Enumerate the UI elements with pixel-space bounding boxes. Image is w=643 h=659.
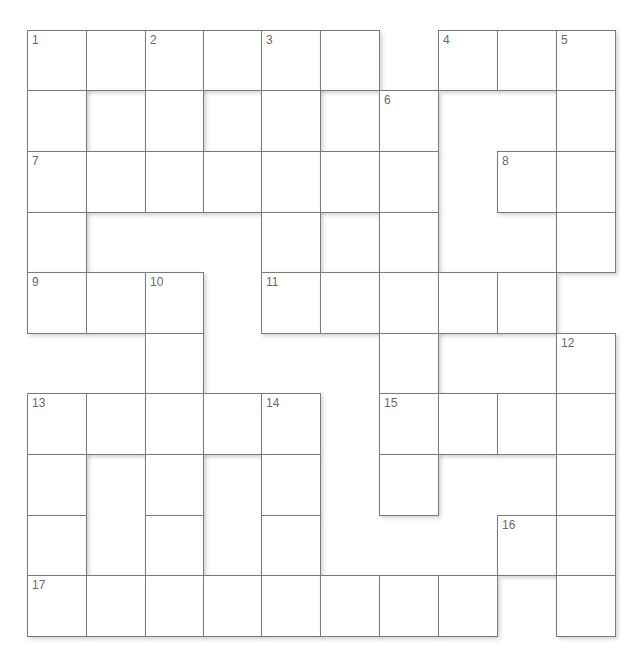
clue-number: 12 <box>561 337 574 349</box>
crossword-cell[interactable] <box>497 393 557 455</box>
crossword-cell[interactable] <box>261 212 321 273</box>
crossword-cell[interactable] <box>145 515 204 576</box>
crossword-cell[interactable] <box>261 454 321 516</box>
crossword-cell[interactable] <box>320 575 380 637</box>
crossword-cell[interactable] <box>438 272 498 334</box>
crossword-cell[interactable] <box>27 212 87 273</box>
crossword-cell[interactable]: 11 <box>261 272 321 334</box>
crossword-cell[interactable] <box>203 30 262 91</box>
crossword-cell[interactable]: 12 <box>556 333 616 394</box>
crossword-cell[interactable] <box>145 151 204 213</box>
crossword-cell[interactable] <box>556 90 616 152</box>
crossword-cell[interactable]: 2 <box>145 30 204 91</box>
crossword-cell[interactable] <box>497 30 557 91</box>
crossword-cell[interactable]: 1 <box>27 30 87 91</box>
crossword-cell[interactable] <box>145 454 204 516</box>
crossword-cell[interactable]: 6 <box>379 90 439 152</box>
crossword-cell[interactable] <box>320 30 380 91</box>
crossword-cell[interactable] <box>203 575 262 637</box>
crossword-cell[interactable] <box>86 393 146 455</box>
crossword-cell[interactable] <box>27 515 87 576</box>
crossword-cell[interactable] <box>27 90 87 152</box>
crossword-cell[interactable] <box>438 575 498 637</box>
clue-number: 9 <box>32 276 39 288</box>
crossword-cell[interactable] <box>261 515 321 576</box>
clue-number: 16 <box>502 519 515 531</box>
crossword-cell[interactable] <box>556 151 616 213</box>
crossword-cell[interactable] <box>203 393 262 455</box>
crossword-cell[interactable]: 4 <box>438 30 498 91</box>
clue-number: 1 <box>32 34 39 46</box>
crossword-cell[interactable] <box>556 575 616 637</box>
crossword-cell[interactable] <box>27 454 87 516</box>
crossword-cell[interactable]: 16 <box>497 515 557 576</box>
crossword-cell[interactable] <box>556 515 616 576</box>
crossword-cell[interactable]: 15 <box>379 393 439 455</box>
clue-number: 2 <box>150 34 157 46</box>
crossword-cell[interactable] <box>145 333 204 394</box>
crossword-cell[interactable] <box>379 151 439 213</box>
crossword-cell[interactable] <box>438 393 498 455</box>
clue-number: 5 <box>561 34 568 46</box>
crossword-cell[interactable] <box>379 212 439 273</box>
crossword-cell[interactable]: 17 <box>27 575 87 637</box>
clue-number: 14 <box>266 397 279 409</box>
crossword-cell[interactable] <box>556 212 616 273</box>
crossword-cell[interactable] <box>379 575 439 637</box>
crossword-cell[interactable]: 8 <box>497 151 557 213</box>
clue-number: 13 <box>32 397 45 409</box>
clue-number: 6 <box>384 94 391 106</box>
clue-number: 10 <box>150 276 163 288</box>
crossword-cell[interactable] <box>261 90 321 152</box>
crossword-grid: 1234567891011121314151617 <box>0 0 643 659</box>
crossword-cell[interactable] <box>320 151 380 213</box>
crossword-cell[interactable]: 3 <box>261 30 321 91</box>
clue-number: 7 <box>32 155 39 167</box>
crossword-cell[interactable] <box>556 454 616 516</box>
crossword-cell[interactable]: 14 <box>261 393 321 455</box>
crossword-cell[interactable]: 5 <box>556 30 616 91</box>
clue-number: 11 <box>266 276 278 288</box>
crossword-cell[interactable]: 9 <box>27 272 87 334</box>
crossword-cell[interactable]: 7 <box>27 151 87 213</box>
crossword-cell[interactable] <box>86 575 146 637</box>
crossword-cell[interactable] <box>261 151 321 213</box>
crossword-cell[interactable] <box>379 272 439 334</box>
crossword-cell[interactable] <box>86 272 146 334</box>
crossword-cell[interactable] <box>261 575 321 637</box>
crossword-cell[interactable] <box>556 393 616 455</box>
clue-number: 4 <box>443 34 450 46</box>
crossword-cell[interactable] <box>145 393 204 455</box>
crossword-cell[interactable] <box>497 272 557 334</box>
crossword-cell[interactable] <box>320 272 380 334</box>
crossword-cell[interactable] <box>86 30 146 91</box>
crossword-cell[interactable] <box>379 454 439 516</box>
clue-number: 3 <box>266 34 273 46</box>
clue-number: 8 <box>502 155 509 167</box>
crossword-cell[interactable] <box>145 575 204 637</box>
clue-number: 17 <box>32 579 45 591</box>
crossword-cell[interactable] <box>86 151 146 213</box>
clue-number: 15 <box>384 397 397 409</box>
crossword-cell[interactable] <box>379 333 439 394</box>
crossword-cell[interactable]: 10 <box>145 272 204 334</box>
crossword-cell[interactable] <box>145 90 204 152</box>
crossword-cell[interactable] <box>203 151 262 213</box>
crossword-cell[interactable]: 13 <box>27 393 87 455</box>
